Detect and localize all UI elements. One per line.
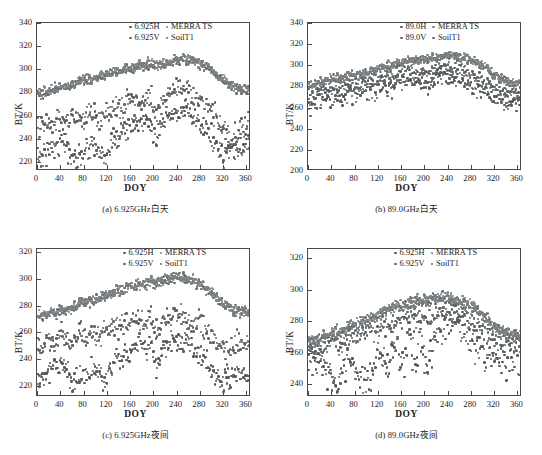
- data-point: [235, 312, 237, 314]
- data-point: [500, 338, 502, 340]
- data-point: [515, 110, 517, 112]
- data-point: [486, 357, 488, 359]
- data-point: [249, 312, 250, 314]
- data-point: [247, 90, 249, 92]
- data-point: [344, 380, 346, 382]
- data-point: [496, 102, 498, 104]
- data-point: [234, 368, 236, 370]
- data-point: [48, 333, 50, 335]
- data-point: [150, 102, 152, 104]
- data-point: [308, 108, 310, 110]
- data-point: [97, 301, 99, 303]
- data-point: [192, 87, 194, 89]
- data-point: [405, 70, 407, 72]
- data-point: [58, 372, 60, 374]
- data-point: [516, 95, 518, 97]
- data-point: [114, 143, 116, 145]
- data-point: [80, 320, 82, 322]
- y-tick-label-a: 220: [0, 156, 32, 166]
- data-point: [234, 315, 236, 317]
- data-point: [210, 376, 212, 378]
- data-point: [406, 311, 408, 313]
- data-point: [344, 330, 346, 332]
- data-point: [65, 309, 67, 311]
- data-point: [437, 81, 439, 83]
- data-point: [98, 364, 100, 366]
- legend-label: MERRA TS: [434, 247, 482, 258]
- data-point: [195, 125, 197, 127]
- data-point: [359, 386, 361, 388]
- data-point: [117, 338, 119, 340]
- data-point: [309, 115, 311, 117]
- data-point: [224, 121, 226, 123]
- data-point: [182, 85, 184, 87]
- data-point: [239, 137, 241, 139]
- data-point: [445, 308, 447, 310]
- y-tick-d: [308, 384, 312, 385]
- data-point: [143, 281, 145, 283]
- data-point: [100, 157, 102, 159]
- data-point: [406, 306, 408, 308]
- data-point: [111, 374, 113, 376]
- data-point: [248, 93, 250, 95]
- data-point: [504, 344, 506, 346]
- data-point: [391, 331, 393, 333]
- data-point: [520, 365, 521, 367]
- data-point: [337, 388, 339, 390]
- data-point: [494, 338, 496, 340]
- data-point: [189, 107, 191, 109]
- data-point: [150, 305, 152, 307]
- data-point: [43, 130, 45, 132]
- data-point: [66, 376, 68, 378]
- data-point: [40, 128, 42, 130]
- data-point: [440, 78, 442, 80]
- data-point: [309, 345, 311, 347]
- data-point: [518, 345, 520, 347]
- x-tick-label-c: 360: [239, 399, 252, 409]
- data-point: [60, 122, 62, 124]
- data-point: [234, 352, 236, 354]
- data-point: [192, 330, 194, 332]
- data-point: [148, 336, 150, 338]
- data-point: [121, 97, 123, 99]
- data-point: [463, 297, 465, 299]
- data-point: [359, 371, 361, 373]
- legend-b: 89.0HMERRA TS89.0VSoilT1: [399, 21, 484, 43]
- x-axis-label-b: DOY: [271, 183, 542, 193]
- data-point: [220, 347, 222, 349]
- data-point: [73, 302, 75, 304]
- y-tick-b: [308, 150, 312, 151]
- data-point: [339, 331, 341, 333]
- data-point: [73, 86, 75, 88]
- x-tick-c: [246, 391, 247, 395]
- data-point: [248, 313, 250, 315]
- data-point: [93, 325, 95, 327]
- data-point: [89, 306, 91, 308]
- x-tick-c: [153, 391, 154, 395]
- data-point: [212, 297, 214, 299]
- data-point: [443, 328, 445, 330]
- y-tick-c: [37, 279, 41, 280]
- data-point: [49, 154, 51, 156]
- data-point: [197, 114, 199, 116]
- legend-label: SoilT1: [434, 258, 482, 269]
- data-point: [55, 144, 57, 146]
- data-point: [322, 341, 324, 343]
- data-point: [418, 78, 420, 80]
- y-tick-label-b: 340: [271, 17, 303, 27]
- y-tick-label-a: 240: [0, 133, 32, 143]
- data-point: [390, 79, 392, 81]
- data-point: [98, 336, 100, 338]
- data-point: [246, 335, 248, 337]
- data-point: [331, 389, 333, 391]
- data-point: [172, 117, 174, 119]
- chart-panel-a: BT/K 6.925HMERRA TS6.925VSoilT1 DOY (a) …: [0, 0, 271, 228]
- data-point: [411, 354, 413, 356]
- x-tick-b: [331, 165, 332, 169]
- data-point: [43, 86, 45, 88]
- data-point: [415, 327, 417, 329]
- data-point: [75, 367, 77, 369]
- data-point: [490, 358, 492, 360]
- data-point: [486, 342, 488, 344]
- data-point: [426, 364, 428, 366]
